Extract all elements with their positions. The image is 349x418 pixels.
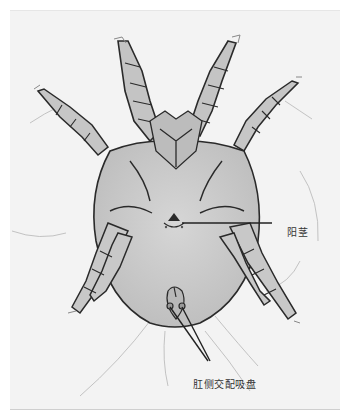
leg-second-left <box>34 85 108 155</box>
label-penis: 阳茎 <box>287 224 308 239</box>
leg-second-right <box>234 77 302 151</box>
label-paranal-copulatory-suckers: 肛侧交配吸盘 <box>193 376 256 391</box>
mite-diagram-figure: 阳茎 肛侧交配吸盘 <box>10 10 340 410</box>
mite-illustration <box>10 11 340 409</box>
